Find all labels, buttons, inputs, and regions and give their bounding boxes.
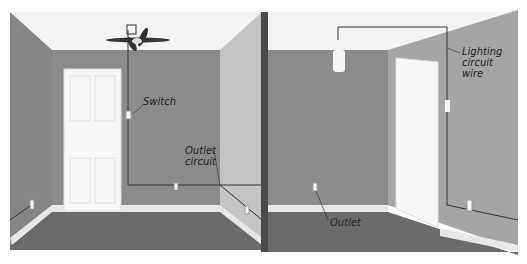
label-outlet: Outlet: [330, 217, 361, 228]
outlet: [313, 183, 317, 191]
divider: [261, 12, 268, 252]
door: [64, 69, 121, 211]
left-room: [10, 12, 303, 250]
outlet: [174, 183, 178, 190]
outlet: [30, 200, 34, 209]
wiring-illustration: [0, 0, 527, 264]
label-lighting-circuit-wire: Lighting circuit wire: [462, 46, 502, 79]
pendant-light: [333, 50, 345, 72]
label-outlet-circuit: Outlet circuit: [185, 145, 216, 167]
switch-box: [126, 111, 131, 119]
label-switch: Switch: [143, 96, 176, 107]
switch-box: [445, 100, 450, 112]
door: [396, 58, 438, 228]
